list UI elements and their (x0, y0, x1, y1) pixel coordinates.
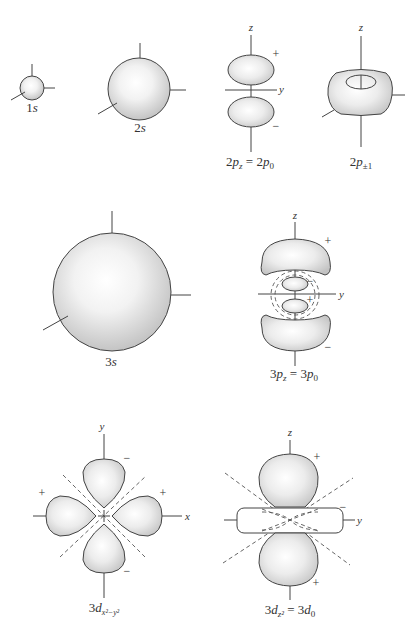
negative-lobe (228, 97, 274, 127)
plus-sign-top: + (314, 450, 321, 464)
orbital-2p-pm1: z 2p±1 (322, 21, 405, 171)
orbital-3dz2: z y + − + 3dz² = 3d0 (223, 426, 362, 619)
minus-sign-ring: − (340, 500, 347, 514)
minus-sign-outer: − (325, 340, 332, 354)
label-3s: 3s (105, 354, 117, 369)
label-3dz2: 3dz² = 3d0 (265, 602, 316, 619)
orbital-3pz: z y + − + − 3pz = 3p0 (258, 209, 344, 383)
label-2pz: 2pz = 2p0 (226, 154, 274, 171)
orbital-3s: 3s (43, 211, 191, 369)
y-axis-label: y (338, 288, 344, 300)
plus-sign: + (273, 47, 280, 61)
1s-sphere (20, 76, 44, 100)
lobe-left (46, 496, 96, 536)
y-axis-label: y (356, 514, 362, 526)
x-axis-tick (98, 103, 117, 114)
torus (328, 70, 393, 116)
x-axis-tick (322, 110, 334, 117)
lobe-top-positive (259, 454, 318, 507)
plus-sign-inner: + (307, 293, 314, 307)
inner-positive-lobe (282, 299, 308, 313)
x-axis-label: x (184, 510, 190, 522)
plus-sign-bottom: + (313, 576, 320, 590)
orbital-3dx2-y2: y x − + + − 3dx²−y² (33, 420, 190, 617)
z-axis-label: z (248, 21, 254, 33)
minus-sign-bottom: − (124, 564, 131, 578)
2s-sphere (108, 58, 170, 120)
plus-sign-left: + (39, 486, 46, 500)
orbital-diagram: 1s 2s z y + − 2pz = 2p0 z 2p±1 (0, 0, 415, 623)
z-axis-label: z (292, 209, 298, 221)
outer-positive-lobe (261, 239, 330, 275)
plus-sign-right: + (160, 486, 167, 500)
y-axis-label: y (99, 420, 105, 432)
orbital-2pz: z y + − 2pz = 2p0 (225, 21, 284, 171)
y-axis-label: y (278, 83, 284, 95)
label-3pz: 3pz = 3p0 (270, 366, 318, 383)
positive-lobe (228, 55, 274, 85)
minus-sign: − (273, 119, 280, 133)
3s-sphere (53, 233, 171, 351)
label-1s: 1s (26, 100, 38, 115)
outer-negative-lobe (261, 315, 330, 351)
minus-sign-top: − (124, 451, 131, 465)
label-2s: 2s (134, 120, 146, 135)
label-3dx2-y2: 3dx²−y² (89, 600, 120, 617)
label-2p-pm1: 2p±1 (350, 154, 372, 171)
inner-negative-lobe (282, 277, 308, 291)
z-axis-label: z (358, 21, 364, 33)
orbital-1s: 1s (11, 64, 55, 115)
lobe-bottom-positive (259, 533, 318, 586)
minus-sign-inner: − (307, 274, 314, 288)
lobe-right (112, 496, 162, 536)
z-axis-label: z (287, 426, 293, 438)
plus-sign-outer: + (325, 234, 332, 248)
orbital-2s: 2s (98, 43, 186, 135)
